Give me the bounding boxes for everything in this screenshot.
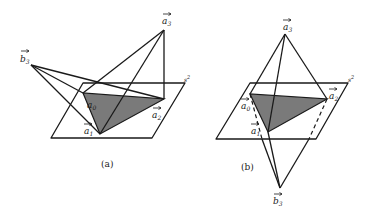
- label-a2-b: a2: [329, 88, 338, 103]
- label-plane-b: s2: [348, 74, 354, 83]
- shaded-triangle-b: [250, 94, 327, 132]
- label-b3-b: b3: [273, 193, 283, 208]
- panel-b: a3 a0 a1 a2 b3 s2 (b): [216, 19, 354, 208]
- label-a1-a: a1: [84, 123, 93, 138]
- label-a2-a: a2: [152, 107, 161, 122]
- label-b3-a: b3: [20, 50, 30, 66]
- svg-text:b3: b3: [273, 196, 283, 207]
- svg-text:s2: s2: [348, 74, 354, 83]
- label-a3-a: a3: [162, 13, 171, 28]
- caption-b: (b): [241, 162, 254, 172]
- figure-canvas: a3 b3 a0 a1 a2 s2 (a): [0, 0, 374, 218]
- svg-text:a2: a2: [152, 110, 161, 121]
- caption-a: (a): [101, 159, 113, 169]
- label-a3-b: a3: [283, 19, 292, 34]
- edge-a3-a2-b: [285, 34, 327, 99]
- svg-text:a2: a2: [329, 91, 338, 102]
- svg-text:a0: a0: [241, 101, 250, 112]
- svg-text:a1: a1: [251, 126, 260, 137]
- label-plane-a: s2: [184, 74, 190, 83]
- svg-text:a3: a3: [283, 22, 292, 33]
- edge-b3-a0: [31, 65, 83, 93]
- edge-b3-a2-visible: [280, 139, 309, 188]
- svg-text:s2: s2: [184, 74, 190, 83]
- svg-text:a1: a1: [84, 126, 93, 137]
- svg-text:b3: b3: [20, 54, 30, 65]
- label-a1-b: a1: [251, 123, 260, 138]
- panel-a: a3 b3 a0 a1 a2 s2 (a): [20, 13, 190, 170]
- svg-text:a3: a3: [162, 16, 171, 27]
- label-a0-b: a0: [241, 98, 250, 113]
